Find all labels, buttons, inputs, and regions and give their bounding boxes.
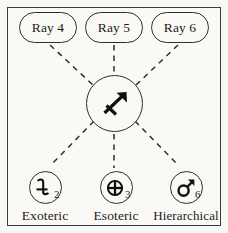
ray-node-4[interactable]: Ray 4 bbox=[19, 12, 77, 43]
center-node-sagittarius[interactable] bbox=[86, 75, 143, 132]
ray-node-5[interactable]: Ray 5 bbox=[85, 12, 143, 43]
ruler-group-esoteric[interactable]: 3 Esoteric bbox=[79, 171, 153, 224]
connector-ray4-center bbox=[50, 45, 94, 86]
jupiter-glyph bbox=[35, 177, 56, 198]
ruler-number-esoteric: 3 bbox=[125, 189, 131, 200]
ruler-number-exoteric: 2 bbox=[54, 189, 60, 200]
ruler-label-exoteric: Exoteric bbox=[22, 208, 69, 224]
connector-ray6-center bbox=[135, 45, 178, 86]
mars-glyph bbox=[176, 178, 196, 198]
connector-center-exoteric bbox=[50, 121, 94, 166]
connector-center-hierarchical bbox=[135, 121, 179, 166]
ruler-label-hierarchical: Hierarchical bbox=[153, 208, 218, 224]
ray-node-5-label: Ray 5 bbox=[98, 20, 130, 36]
ruler-group-exoteric[interactable]: 2 Exoteric bbox=[8, 171, 82, 224]
earth-glyph bbox=[106, 178, 126, 198]
ruler-circle-hierarchical[interactable]: 6 bbox=[170, 171, 203, 204]
ruler-circle-exoteric[interactable]: 2 bbox=[29, 171, 62, 204]
ray-node-6[interactable]: Ray 6 bbox=[151, 12, 209, 43]
sagittarius-glyph bbox=[98, 87, 132, 121]
ruler-number-hierarchical: 6 bbox=[195, 189, 201, 200]
ray-node-4-label: Ray 4 bbox=[32, 20, 64, 36]
ruler-group-hierarchical[interactable]: 6 Hierarchical bbox=[149, 171, 223, 224]
ray-node-6-label: Ray 6 bbox=[164, 20, 196, 36]
ruler-circle-esoteric[interactable]: 3 bbox=[100, 171, 133, 204]
ruler-label-esoteric: Esoteric bbox=[93, 208, 138, 224]
diagram-figure: Ray 4 Ray 5 Ray 6 2 Exoteric bbox=[0, 0, 228, 233]
